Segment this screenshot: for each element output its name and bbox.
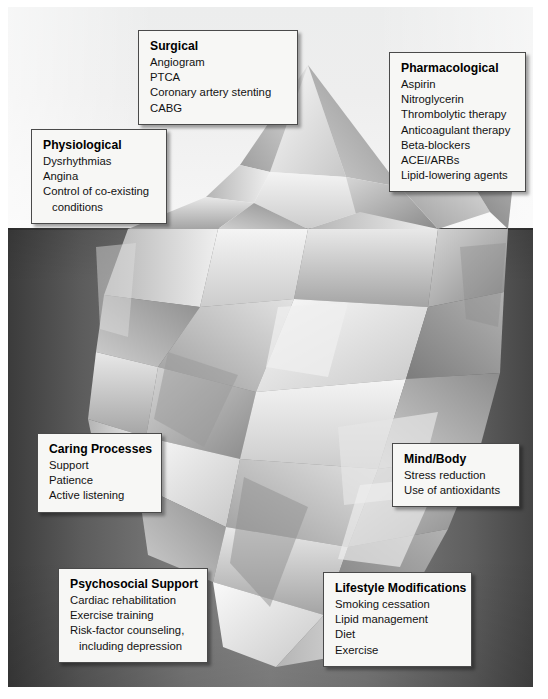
callout-item: Lipid-lowering agents (401, 168, 515, 183)
callout-item: Beta-blockers (401, 138, 515, 153)
callout-item: Nitroglycerin (401, 92, 515, 107)
callout-title: Pharmacological (401, 60, 515, 76)
callout-item: Cardiac rehabilitation (70, 593, 197, 608)
callout-title: Lifestyle Modifications (335, 580, 461, 596)
callout-item: including depression (70, 639, 197, 654)
callout-caring-processes[interactable]: Caring Processes Support Patience Active… (37, 433, 162, 513)
callout-title: Physiological (43, 137, 156, 153)
callout-pharmacological[interactable]: Pharmacological Aspirin Nitroglycerin Th… (389, 52, 526, 192)
callout-title: Mind/Body (404, 451, 509, 467)
callout-item: Exercise training (70, 608, 197, 623)
callout-item: conditions (43, 200, 156, 215)
callout-item: Diet (335, 627, 461, 642)
callout-item: ACEI/ARBs (401, 153, 515, 168)
callout-mind-body[interactable]: Mind/Body Stress reduction Use of antiox… (392, 443, 520, 507)
callout-item: Lipid management (335, 612, 461, 627)
callout-lifestyle-modifications[interactable]: Lifestyle Modifications Smoking cessatio… (323, 572, 472, 667)
callout-item: Angiogram (150, 55, 287, 70)
callout-title: Caring Processes (49, 441, 151, 457)
callout-title: Surgical (150, 38, 287, 54)
callout-surgical[interactable]: Surgical Angiogram PTCA Coronary artery … (138, 30, 298, 125)
callout-item: Support (49, 458, 151, 473)
callout-physiological[interactable]: Physiological Dysrhythmias Angina Contro… (31, 129, 167, 224)
illustration-scene: Surgical Angiogram PTCA Coronary artery … (8, 7, 533, 687)
callout-item: Aspirin (401, 77, 515, 92)
callout-item: Stress reduction (404, 468, 509, 483)
callout-item: Coronary artery stenting (150, 85, 287, 100)
callout-item: PTCA (150, 70, 287, 85)
callout-item: Risk-factor counseling, (70, 623, 197, 638)
callout-item: Anticoagulant therapy (401, 123, 515, 138)
callout-item: CABG (150, 101, 287, 116)
callout-item: Exercise (335, 643, 461, 658)
callout-item: Control of co-existing (43, 184, 156, 199)
callout-item: Angina (43, 169, 156, 184)
callout-item: Dysrhythmias (43, 154, 156, 169)
callout-item: Active listening (49, 488, 151, 503)
callout-title: Psychosocial Support (70, 576, 197, 592)
callout-psychosocial-support[interactable]: Psychosocial Support Cardiac rehabilitat… (58, 568, 208, 663)
callout-item: Thrombolytic therapy (401, 107, 515, 122)
callout-item: Smoking cessation (335, 597, 461, 612)
callout-item: Use of antioxidants (404, 483, 509, 498)
callout-item: Patience (49, 473, 151, 488)
iceberg-figure: Surgical Angiogram PTCA Coronary artery … (0, 0, 548, 699)
